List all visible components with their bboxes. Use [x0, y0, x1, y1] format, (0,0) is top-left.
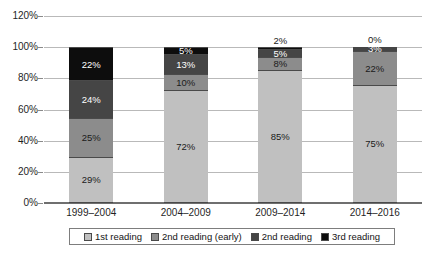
y-axis-tick-mark [37, 203, 43, 204]
y-axis-tick-label: 40% [0, 136, 38, 146]
bar-segment-value-label: 72% [176, 142, 195, 152]
bar-segment-value-label: 85% [271, 132, 290, 142]
bar-segment[interactable]: 24% [69, 81, 113, 118]
legend-item-label: 1st reading [95, 232, 142, 242]
bar-segment[interactable]: 72% [164, 91, 208, 203]
x-axis-tick-label: 2004–2009 [138, 207, 234, 218]
bar-segment[interactable]: 29% [69, 158, 113, 203]
bar-segment[interactable]: 75% [353, 86, 397, 203]
y-axis-tick-mark [37, 16, 43, 17]
stacked-bar-chart: 0%20%40%60%80%100%120% 22%24%25%29%5%13%… [0, 0, 433, 259]
x-axis-tick-label: 2014–2016 [327, 207, 423, 218]
legend-item-label: 3rd reading [332, 232, 380, 242]
legend-swatch-icon [151, 233, 159, 241]
bar-segment-value-label: 13% [176, 60, 195, 70]
y-axis-tick-mark [37, 47, 43, 48]
y-axis-tick-label: 0% [0, 198, 38, 208]
bar-stack: 2%5%8%85% [258, 47, 302, 203]
bar-segment-value-label: 22% [365, 64, 384, 74]
bar-segment[interactable]: 10% [164, 75, 208, 91]
bar-segment-value-label: 10% [176, 78, 195, 88]
bar-stack: 5%13%10%72% [164, 47, 208, 203]
bar-stack: 0%3%22%75% [353, 47, 397, 203]
y-axis-tick-mark [37, 110, 43, 111]
bar-segment[interactable]: 8% [258, 58, 302, 70]
bar-segment-value-label: 29% [82, 175, 101, 185]
y-axis-tick-label: 100% [0, 42, 38, 52]
legend-item[interactable]: 2nd reading [251, 232, 312, 242]
legend-swatch-icon [321, 233, 329, 241]
y-axis-tick-mark [37, 172, 43, 173]
legend-item[interactable]: 1st reading [84, 232, 142, 242]
chart-legend: 1st reading2nd reading (early)2nd readin… [69, 228, 395, 245]
bar-segment[interactable]: 22% [69, 47, 113, 81]
legend-item-label: 2nd reading [262, 232, 312, 242]
bar-segment-value-label: 24% [82, 95, 101, 105]
bar-segment-value-label: 5% [273, 49, 287, 59]
bar-segment-value-label: 22% [82, 60, 101, 70]
x-axis-tick-label: 2009–2014 [232, 207, 328, 218]
legend-swatch-icon [84, 233, 92, 241]
legend-item[interactable]: 3rd reading [321, 232, 380, 242]
y-axis-tick-mark [37, 78, 43, 79]
plot-area: 22%24%25%29%5%13%10%72%2%5%8%85%0%3%22%7… [44, 16, 422, 203]
bar-segment[interactable]: 22% [353, 52, 397, 86]
bar-segment[interactable]: 25% [69, 119, 113, 158]
y-axis-tick-label: 20% [0, 167, 38, 177]
bar-segment-value-label: 2% [258, 36, 302, 46]
bar-segment[interactable]: 5% [258, 50, 302, 58]
y-axis-tick-label: 120% [0, 11, 38, 21]
y-axis-tick-label: 80% [0, 73, 38, 83]
bar-segment[interactable]: 85% [258, 71, 302, 203]
legend-item-label: 2nd reading (early) [162, 232, 242, 242]
bar-segment-value-label: 8% [273, 59, 287, 69]
y-axis-tick-label: 60% [0, 105, 38, 115]
legend-item[interactable]: 2nd reading (early) [151, 232, 242, 242]
bar-segment-value-label: 25% [82, 133, 101, 143]
bar-segment[interactable]: 5% [164, 47, 208, 55]
bar-segment[interactable]: 13% [164, 55, 208, 75]
gridline-120pct [44, 16, 422, 17]
bar-segment-value-label: 75% [365, 139, 384, 149]
bar-stack: 22%24%25%29% [69, 47, 113, 203]
x-axis-tick-label: 1999–2004 [43, 207, 139, 218]
legend-swatch-icon [251, 233, 259, 241]
y-axis-tick-mark [37, 141, 43, 142]
